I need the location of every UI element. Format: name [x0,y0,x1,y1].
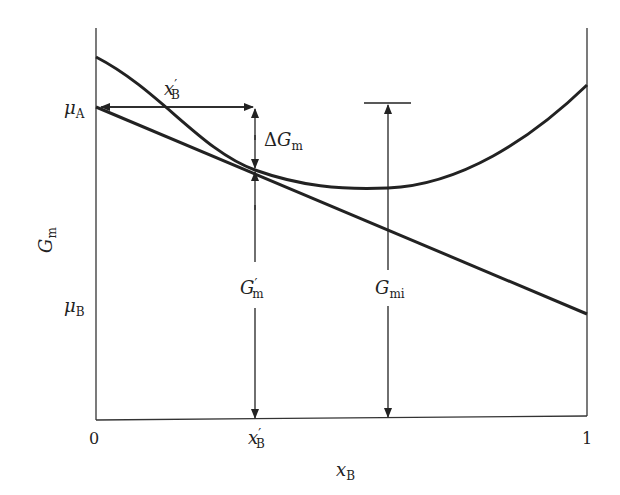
g-prime-label: G′m [240,276,264,301]
mu-b-label: μB [64,295,85,319]
diagram-canvas: μA μB Gm x′B ΔGm G′m Gmi 0 x′B 1 xB [0,0,620,495]
tangent-line [96,107,587,314]
xb-prime-top-label: x′B [164,77,180,102]
gm-curve [96,57,587,188]
y-axis-label: Gm [35,227,59,253]
gmi-label: Gmi [375,277,405,301]
x-axis-label: xB [336,459,355,483]
x-tick-1: 1 [582,429,592,448]
mu-a-label: μA [64,97,85,121]
gibbs-diagram: μA μB Gm x′B ΔGm G′m Gmi 0 x′B 1 xB [0,0,620,495]
x-tick-xb-prime: x′B [248,426,265,451]
delta-g-label: ΔGm [264,129,303,153]
bottom-axis [96,416,587,420]
x-tick-0: 0 [89,429,99,448]
